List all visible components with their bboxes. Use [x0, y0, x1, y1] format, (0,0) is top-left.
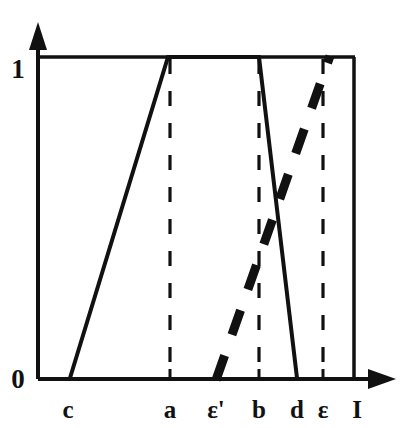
x-tick-label-epsilon: ε: [318, 396, 329, 423]
x-tick-label-b: b: [252, 396, 266, 423]
x-tick-label-d: d: [290, 396, 304, 423]
x-tick-label-c: c: [62, 396, 73, 423]
x-tick-label-epsilon-prime: ε': [207, 396, 225, 423]
right-arrow-icon: [368, 369, 396, 389]
y-tick-label-one: 1: [11, 54, 25, 84]
membership-function-plot: 1 0 c a ε' b d ε I: [0, 0, 406, 428]
figure-root: 1 0 c a ε' b d ε I: [0, 0, 406, 428]
x-tick-label-a: a: [164, 396, 177, 423]
axis-tick-labels: 1 0 c a ε' b d ε I: [11, 54, 362, 423]
x-axis-label-I: I: [352, 396, 362, 423]
up-arrow-icon: [29, 22, 47, 50]
threshold-ramp-dashed-line: [216, 56, 330, 380]
threshold-ramp-segment: [216, 56, 330, 380]
y-tick-label-zero: 0: [11, 364, 25, 394]
trapezoid-membership-curve: [70, 57, 297, 378]
trapezoid-polyline: [70, 57, 297, 378]
